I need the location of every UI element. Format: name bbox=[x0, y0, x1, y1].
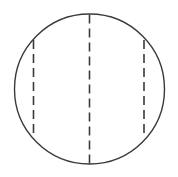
figure-container bbox=[0, 0, 178, 177]
circle-diagram-svg bbox=[0, 0, 178, 177]
